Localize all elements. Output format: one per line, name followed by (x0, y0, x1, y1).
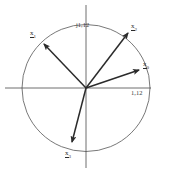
vector-label-x0: x0 (143, 61, 149, 69)
vector-label-x2: x2 (131, 23, 137, 31)
vector-subscript-x0: 0 (147, 65, 150, 70)
vector-symbol-x2: x (131, 23, 135, 31)
vector-label-x1: x1 (30, 30, 36, 38)
vector-symbol-x0: x (143, 61, 147, 69)
axis-label-top: j1,12 (76, 22, 89, 29)
vector-arrow-x0 (86, 70, 139, 88)
vector-arrow-x3 (72, 88, 86, 142)
vector-diagram-figure: j1,12 1,12 x0 x2 x1 x3 (0, 0, 171, 173)
vector-subscript-x3: 3 (69, 154, 72, 159)
vector-arrow-x1 (44, 44, 86, 88)
axis-label-right: 1,12 (131, 90, 142, 97)
vector-label-x3: x3 (65, 150, 71, 158)
vector-symbol-x3: x (65, 150, 69, 158)
vector-subscript-x1: 1 (34, 34, 37, 39)
vector-arrow-x2 (86, 33, 128, 88)
vector-subscript-x2: 2 (135, 27, 138, 32)
vector-symbol-x1: x (30, 30, 34, 38)
